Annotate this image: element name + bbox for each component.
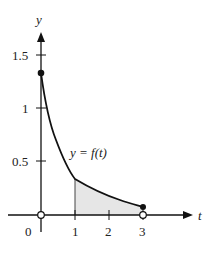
y-axis-label: y xyxy=(34,12,42,27)
x-axis-label: t xyxy=(198,208,202,223)
x-tick-label-0: 0 xyxy=(25,224,32,239)
x-tick-label-1: 1 xyxy=(72,224,79,239)
y-tick-label-1: 1 xyxy=(22,101,29,116)
x-tick-label-2: 2 xyxy=(105,224,112,239)
x-axis-arrow-icon xyxy=(183,211,193,219)
y-tick-label-0.5: 0.5 xyxy=(12,154,28,169)
y-tick-label-1.5: 1.5 xyxy=(12,48,28,63)
graph: y t 1.5 1 0.5 0 1 2 3 y = f(t) xyxy=(0,0,214,255)
curve-f-t xyxy=(41,73,143,207)
curve-label: y = f(t) xyxy=(68,145,107,160)
x-tick-label-3: 3 xyxy=(139,224,146,239)
open-point-t3 xyxy=(140,212,147,219)
start-point xyxy=(38,70,45,77)
end-point xyxy=(140,204,146,210)
open-point-origin xyxy=(38,212,45,219)
y-axis-arrow-icon xyxy=(37,32,45,42)
